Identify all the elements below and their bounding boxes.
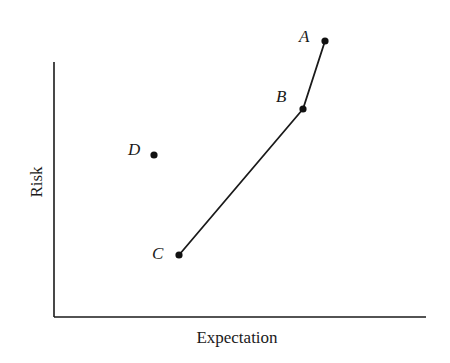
label-d: D xyxy=(127,140,141,159)
point-d xyxy=(150,151,157,158)
x-axis-label: Expectation xyxy=(196,328,278,347)
point-labels: A B C D xyxy=(127,27,310,263)
y-axis-label: Risk xyxy=(27,166,46,198)
axes xyxy=(54,62,426,317)
point-c xyxy=(175,251,182,258)
label-c: C xyxy=(152,244,164,263)
risk-expectation-chart: Expectation Risk A B C D xyxy=(0,0,450,363)
line-c-b-a xyxy=(179,41,325,255)
label-b: B xyxy=(276,87,287,106)
point-b xyxy=(299,105,306,112)
label-a: A xyxy=(298,27,310,46)
data-points xyxy=(150,37,328,258)
point-a xyxy=(321,37,328,44)
